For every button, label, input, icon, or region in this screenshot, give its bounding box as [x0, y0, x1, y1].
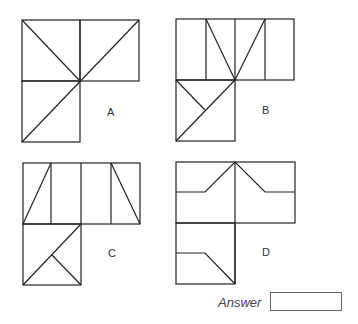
figure-label-a: A	[107, 106, 114, 118]
figure-a	[22, 20, 139, 142]
figure-label-c: C	[108, 247, 116, 259]
figure-b	[176, 19, 294, 141]
figure-label-b: B	[262, 104, 269, 116]
answer-label: Answer	[218, 295, 261, 310]
figure-label-d: D	[262, 246, 270, 258]
puzzle-figures	[0, 0, 358, 324]
figure-c	[23, 163, 140, 285]
figure-d	[176, 162, 295, 284]
answer-input[interactable]	[270, 292, 342, 311]
